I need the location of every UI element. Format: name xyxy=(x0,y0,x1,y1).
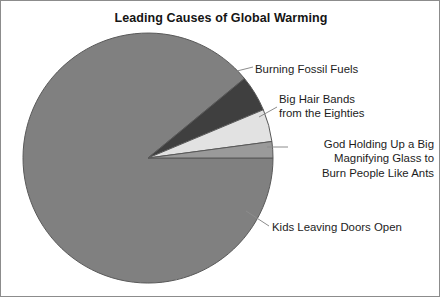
pie-label-burning-fossil-fuels: Burning Fossil Fuels xyxy=(255,62,358,76)
leader-line-burning-fossil-fuels xyxy=(237,67,253,71)
chart-frame: Leading Causes of Global Warming Burning… xyxy=(0,0,440,297)
pie-label-kids-leaving-doors-open: Kids Leaving Doors Open xyxy=(272,220,402,234)
pie-label-god-magnifying-glass: God Holding Up a Big Magnifying Glass to… xyxy=(290,137,434,180)
pie-label-big-hair-bands: Big Hair Bands from the Eighties xyxy=(279,92,364,121)
